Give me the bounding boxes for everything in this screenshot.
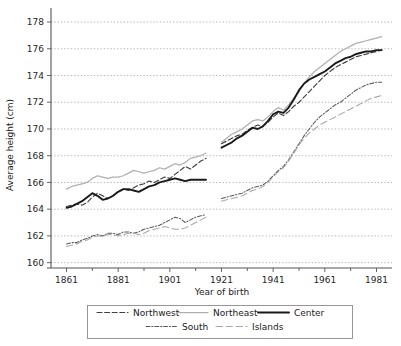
legend-label-center: Center	[294, 308, 325, 318]
chart-figure: 160162164166168170172174176178 186118811…	[0, 0, 401, 346]
y-tick-label-174: 174	[27, 71, 44, 81]
y-tick-label-162: 162	[27, 231, 44, 241]
y-tick-label-166: 166	[27, 178, 44, 188]
x-tick-label-1881: 1881	[107, 275, 130, 285]
legend-label-islands: Islands	[252, 322, 284, 332]
y-tick-labels: 160162164166168170172174176178	[27, 17, 44, 268]
chart-legend: NorthwestNortheastCenterSouthIslands	[88, 306, 353, 339]
x-tick-label-1961: 1961	[313, 275, 336, 285]
y-axis-title: Average height (cm)	[5, 99, 15, 191]
x-tick-label-1921: 1921	[210, 275, 233, 285]
series-lines	[67, 37, 382, 247]
series-northeast	[67, 37, 382, 189]
tick-marks	[47, 22, 377, 272]
series-south-late-path	[222, 82, 382, 198]
axes	[47, 8, 392, 268]
series-northwest	[67, 50, 382, 206]
series-northeast-early-path	[67, 153, 207, 189]
x-tick-labels: 1861188119011921194119611981	[55, 275, 388, 285]
average-height-line-chart: 160162164166168170172174176178 186118811…	[0, 0, 401, 346]
x-tick-label-1941: 1941	[262, 275, 285, 285]
legend-label-northwest: Northwest	[133, 308, 180, 318]
series-south	[67, 82, 382, 244]
series-islands-early-path	[67, 217, 207, 246]
x-tick-label-1981: 1981	[365, 275, 388, 285]
y-tick-label-170: 170	[27, 124, 44, 134]
series-center-late-path	[222, 50, 382, 148]
series-northwest-late-path	[222, 50, 382, 144]
legend-label-south: South	[182, 322, 208, 332]
x-tick-label-1861: 1861	[55, 275, 78, 285]
y-tick-label-164: 164	[27, 204, 44, 214]
legend-items: NorthwestNortheastCenterSouthIslands	[97, 308, 325, 332]
x-tick-label-1901: 1901	[158, 275, 181, 285]
legend-label-northeast: Northeast	[213, 308, 258, 318]
series-islands-late-path	[222, 96, 382, 202]
series-islands	[67, 96, 382, 247]
y-tick-label-176: 176	[27, 44, 44, 54]
y-tick-label-172: 172	[27, 97, 44, 107]
x-axis-title: Year of birth	[194, 287, 250, 297]
y-tick-label-160: 160	[27, 258, 44, 268]
y-tick-label-168: 168	[27, 151, 44, 161]
y-tick-label-178: 178	[27, 17, 44, 27]
